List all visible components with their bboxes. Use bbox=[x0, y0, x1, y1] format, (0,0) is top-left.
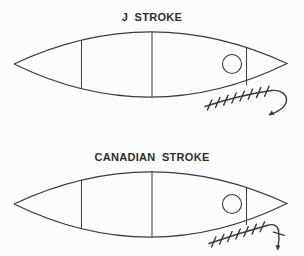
paddler-position-circle bbox=[223, 55, 242, 74]
paddler-position-circle bbox=[223, 195, 242, 214]
j-stroke-diagram bbox=[14, 32, 287, 116]
paddle-stroke-line bbox=[205, 91, 272, 107]
stroke-recovery-hook bbox=[272, 90, 287, 113]
illustration-canvas: J STROKE CANADIAN STROKE bbox=[0, 0, 304, 256]
canadian-stroke-diagram bbox=[14, 172, 287, 251]
stroke-recovery-hook bbox=[267, 225, 279, 248]
arrowhead-icon bbox=[276, 245, 281, 251]
canoe-stroke-diagrams bbox=[0, 0, 304, 256]
